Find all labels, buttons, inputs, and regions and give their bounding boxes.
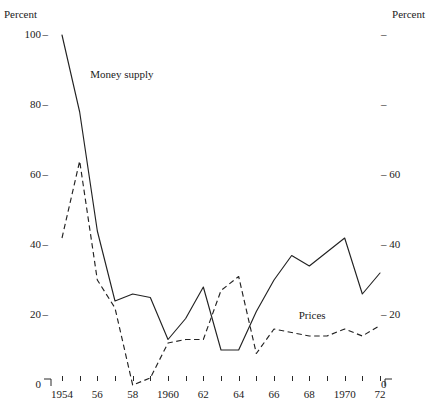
right-axis-corner <box>385 379 392 386</box>
plot-area <box>0 0 429 406</box>
left-axis-corner <box>44 379 51 386</box>
series-label-money-supply: Money supply <box>90 68 153 80</box>
series-line-prices <box>62 161 380 385</box>
series-line-money-supply <box>62 35 380 350</box>
chart-figure: Percent Percent 100 –80 –60 –40 –20 –0 –… <box>0 0 429 406</box>
series-label-prices: Prices <box>299 309 326 321</box>
